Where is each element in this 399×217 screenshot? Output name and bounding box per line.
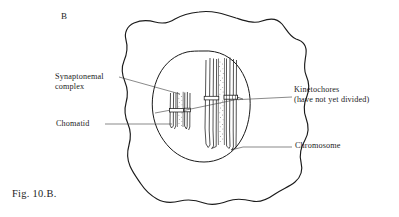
kinetochore-large-attachment xyxy=(238,97,243,100)
cell-membrane-outline xyxy=(122,11,309,204)
label-synaptonemal-line2: complex xyxy=(55,82,104,92)
kinetochore-small-left xyxy=(169,109,183,112)
label-chromosome: Chromosome xyxy=(295,141,341,151)
bivalent-large-chromatid-inner-right xyxy=(229,58,230,149)
label-kinetochores-line1: Kinetochores xyxy=(294,85,369,95)
figure-caption: Fig. 10.B. xyxy=(12,188,57,199)
label-chomatid: Chomatid xyxy=(56,119,90,129)
label-synaptonemal-line1: Synaptonemal xyxy=(55,72,104,82)
cell-diagram xyxy=(0,0,399,217)
bivalent-large-chromatid-outer-right xyxy=(226,59,229,149)
nuclear-envelope xyxy=(152,51,250,162)
bivalent-small xyxy=(169,92,190,130)
leader-line-kinetochores-extension-2 xyxy=(155,110,169,113)
leader-line-chromosome xyxy=(231,147,292,150)
leader-line-synaptonemal xyxy=(119,77,180,94)
bivalent-large-chromatid-outer-left xyxy=(205,60,208,148)
figure-container: B Synaptonemal complex Chomatid Kinetoch… xyxy=(0,0,399,217)
bivalent-large-chromatid-outer-left-2 xyxy=(212,59,214,149)
bivalent-large-chromatid-outer-right-2 xyxy=(232,59,234,150)
label-kinetochores-line2: (have not yet divided) xyxy=(294,95,369,105)
bivalent-large-chromatid-inner-right-2 xyxy=(232,60,237,150)
leader-line-kinetochores-extension xyxy=(185,99,237,110)
label-synaptonemal-complex: Synaptonemal complex xyxy=(55,72,104,92)
kinetochore-large-left xyxy=(204,96,219,100)
bivalent-large-chromatid-inner-left xyxy=(208,58,210,148)
bivalent-large-synaptonemal-stipple xyxy=(219,62,223,142)
label-kinetochores: Kinetochores (have not yet divided) xyxy=(294,85,369,105)
panel-letter-b: B xyxy=(61,11,67,21)
bivalent-large xyxy=(204,58,243,151)
